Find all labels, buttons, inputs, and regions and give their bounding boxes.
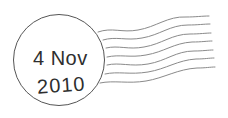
- cancellation-wave-lines: [0, 0, 228, 118]
- wave-line-3: [106, 33, 211, 48]
- wave-line-4: [107, 41, 212, 57]
- postmark-stamp: 4 Nov 2010: [0, 0, 228, 118]
- wave-line-2: [103, 24, 210, 40]
- wave-line-1: [98, 16, 209, 32]
- wave-line-5: [107, 50, 213, 65]
